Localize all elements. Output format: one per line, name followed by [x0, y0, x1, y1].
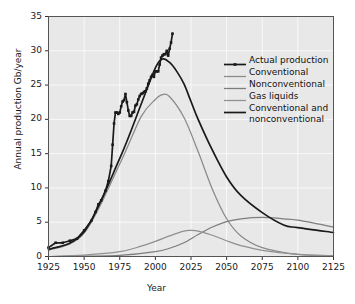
legend-label: Actual production: [246, 55, 328, 66]
y-tick-label: 5: [20, 216, 42, 226]
legend-item: Conventional and nonconventional: [224, 103, 336, 125]
y-tick-label: 15: [20, 148, 42, 158]
y-tick-label: 30: [20, 45, 42, 55]
x-tick-label: 1925: [29, 262, 69, 272]
legend-marker-line-icon: [224, 55, 246, 66]
y-tick-label: 20: [20, 113, 42, 123]
legend-label: Conventional: [246, 67, 308, 78]
legend-line-icon: [224, 103, 246, 114]
y-axis-title: Annual production Gb/year: [13, 29, 23, 189]
legend-label: Gas liquids: [246, 91, 298, 102]
legend-label: Nonconventional: [246, 79, 325, 90]
x-tick-label: 2025: [171, 262, 211, 272]
legend-item: Nonconventional: [224, 79, 336, 90]
x-tick-label: 2000: [135, 262, 175, 272]
legend-line-icon: [224, 67, 246, 78]
x-tick-label: 1975: [100, 262, 140, 272]
legend-item: Actual production: [224, 55, 336, 66]
y-tick-label: 10: [20, 182, 42, 192]
production-chart: 05101520253035 1925195019752000202520502…: [0, 0, 355, 304]
legend-line-icon: [224, 91, 246, 102]
plot-area: [48, 16, 334, 257]
legend-item: Gas liquids: [224, 91, 336, 102]
x-tick-label: 2125: [314, 262, 354, 272]
legend-label: Conventional and nonconventional: [246, 103, 336, 125]
x-axis-title: Year: [147, 283, 166, 293]
y-tick-label: 25: [20, 79, 42, 89]
x-tick-label: 2100: [278, 262, 318, 272]
x-tick-label: 1950: [64, 262, 104, 272]
y-tick-label: 0: [20, 251, 42, 261]
chart-legend: Actual productionConventionalNonconventi…: [224, 55, 336, 126]
y-tick-label: 35: [20, 11, 42, 21]
x-tick-label: 2050: [207, 262, 247, 272]
legend-item: Conventional: [224, 67, 336, 78]
x-tick-label: 2075: [242, 262, 282, 272]
legend-line-icon: [224, 79, 246, 90]
